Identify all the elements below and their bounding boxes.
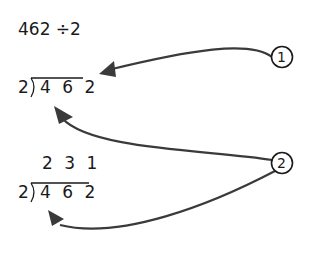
marker-2-label: 2 bbox=[277, 155, 286, 171]
arrow-2-to-step2 bbox=[48, 171, 275, 229]
marker-1-label: 1 bbox=[277, 49, 286, 65]
step1-bracket bbox=[31, 78, 83, 97]
arrow-2-to-step1 bbox=[54, 106, 272, 160]
diagram-graphics bbox=[0, 0, 325, 258]
arrow-1-to-step1 bbox=[99, 48, 272, 77]
step2-bracket bbox=[31, 183, 89, 202]
